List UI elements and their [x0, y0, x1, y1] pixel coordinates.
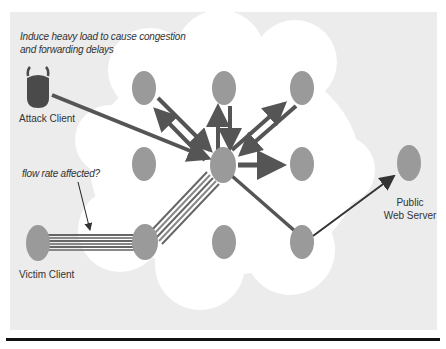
attack-client-label: Attack Client [19, 112, 75, 125]
node-top-mid [212, 71, 236, 105]
node-mid-right [290, 147, 314, 181]
flow-rate-annotation: flow rate affected? [22, 167, 100, 180]
attack-client-icon [27, 67, 49, 108]
node-bot-mid [212, 225, 236, 259]
node-hub [210, 147, 236, 183]
victim-client-label: Victim Client [19, 268, 74, 281]
node-top-left [132, 71, 156, 105]
top-annotation: Induce heavy load to cause congestion an… [20, 30, 186, 56]
public-web-server-label-line-1: Public [382, 196, 438, 209]
node-victim-client [26, 225, 50, 261]
bottom-rule [6, 338, 440, 341]
node-mid-left [132, 147, 156, 181]
node-public-web-server [397, 145, 421, 181]
node-bot-right [290, 225, 314, 259]
node-bot-left [132, 224, 158, 260]
node-top-right [290, 71, 314, 105]
top-annotation-line-2: and forwarding delays [20, 43, 186, 56]
top-annotation-line-1: Induce heavy load to cause congestion [20, 30, 186, 43]
public-web-server-label: Public Web Server [382, 196, 438, 222]
public-web-server-label-line-2: Web Server [382, 209, 438, 222]
